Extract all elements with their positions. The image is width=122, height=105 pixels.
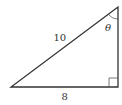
angle-arc <box>109 14 119 19</box>
angle-label: θ <box>105 22 111 33</box>
base-label: 8 <box>62 91 68 102</box>
triangle <box>11 7 118 87</box>
right-angle-marker <box>109 78 118 87</box>
right-triangle-diagram: 10 8 θ <box>0 0 122 105</box>
hypotenuse-label: 10 <box>54 32 67 43</box>
